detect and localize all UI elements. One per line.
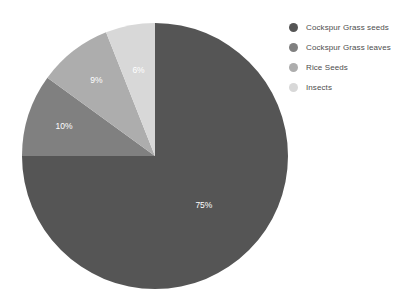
pie-slice-data-label: 10%: [55, 121, 72, 131]
legend-swatch-icon: [289, 63, 298, 72]
legend-item[interactable]: Cockspur Grass seeds: [289, 17, 419, 37]
legend-item-label: Cockspur Grass leaves: [306, 43, 391, 52]
chart-legend: Cockspur Grass seedsCockspur Grass leave…: [289, 17, 419, 97]
legend-item[interactable]: Rice Seeds: [289, 57, 419, 77]
pie-plot-area: 75%10%9%6%: [22, 23, 288, 289]
pie-slice-data-label: 9%: [90, 75, 103, 85]
legend-swatch-icon: [289, 23, 298, 32]
legend-item-label: Rice Seeds: [306, 63, 348, 72]
legend-item[interactable]: Insects: [289, 77, 419, 97]
pie-slice-data-label: 6%: [132, 65, 145, 75]
pie-svg: 75%10%9%6%: [22, 23, 288, 289]
legend-item-label: Insects: [306, 83, 332, 92]
legend-item-label: Cockspur Grass seeds: [306, 23, 389, 32]
legend-swatch-icon: [289, 83, 298, 92]
pie-slice-group: [22, 23, 288, 289]
pie-slice-data-label: 75%: [195, 200, 212, 210]
legend-swatch-icon: [289, 43, 298, 52]
legend-item[interactable]: Cockspur Grass leaves: [289, 37, 419, 57]
pie-chart-figure: 75%10%9%6% Cockspur Grass seedsCockspur …: [0, 0, 419, 307]
